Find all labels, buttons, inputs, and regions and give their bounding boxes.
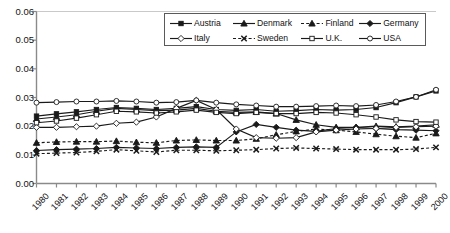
legend-row: AustriaDenmarkFinlandGermany bbox=[168, 16, 422, 31]
data-point-open-diamond bbox=[53, 124, 59, 130]
data-point-open-diamond bbox=[113, 120, 119, 126]
data-point-open-circle bbox=[214, 100, 219, 105]
data-point-open-diamond bbox=[133, 119, 139, 125]
y-tick-label: 0.01 bbox=[0, 150, 34, 160]
data-point-open-square bbox=[274, 111, 278, 115]
legend-item-germany[interactable]: Germany bbox=[357, 16, 422, 31]
data-series-layer bbox=[33, 87, 439, 156]
legend-swatch-open-square bbox=[299, 33, 325, 44]
legend-label: USA bbox=[383, 34, 401, 43]
legend-swatch-open-circle bbox=[357, 33, 383, 44]
data-point-open-circle bbox=[74, 99, 79, 104]
data-point-open-circle bbox=[114, 98, 119, 103]
series-sweden bbox=[34, 145, 439, 157]
data-point-open-circle bbox=[134, 99, 139, 104]
legend-label: Sweden bbox=[257, 34, 288, 43]
data-point-filled-square bbox=[179, 21, 183, 25]
data-point-open-square bbox=[334, 111, 338, 115]
data-point-open-square bbox=[134, 110, 138, 114]
y-tick-label: 0.06 bbox=[0, 7, 34, 17]
data-point-open-circle bbox=[414, 94, 419, 99]
data-point-open-circle bbox=[254, 103, 259, 108]
data-point-open-square bbox=[354, 113, 358, 117]
legend-item-uk[interactable]: U.K. bbox=[299, 31, 357, 46]
legend-item-denmark[interactable]: Denmark bbox=[231, 16, 299, 31]
legend-row: ItalySwedenU.K.USA bbox=[168, 31, 422, 46]
data-point-open-circle bbox=[394, 99, 399, 104]
y-tick-label: 0.05 bbox=[0, 35, 34, 45]
data-point-open-square bbox=[294, 111, 298, 115]
data-point-filled-triangle bbox=[393, 133, 399, 139]
series-usa bbox=[34, 87, 439, 109]
y-tick-label: 0.00 bbox=[0, 179, 34, 189]
data-point-filled-diamond bbox=[273, 124, 279, 130]
data-point-open-square bbox=[254, 110, 258, 114]
data-point-open-square bbox=[434, 120, 438, 124]
data-point-filled-triangle bbox=[113, 138, 119, 144]
data-point-open-circle bbox=[154, 100, 159, 105]
data-point-open-circle bbox=[334, 103, 339, 108]
data-point-open-circle bbox=[174, 100, 179, 105]
data-point-open-square bbox=[94, 113, 98, 117]
data-point-open-circle bbox=[354, 104, 359, 109]
legend-item-finland[interactable]: Finland bbox=[299, 16, 357, 31]
data-point-open-square bbox=[74, 116, 78, 120]
data-point-open-square bbox=[34, 121, 38, 125]
legend-item-austria[interactable]: Austria bbox=[168, 16, 231, 31]
data-point-open-circle bbox=[434, 87, 439, 92]
legend-label: Denmark bbox=[257, 19, 292, 28]
legend-swatch-filled-triangle bbox=[231, 18, 257, 29]
legend-item-sweden[interactable]: Sweden bbox=[231, 31, 299, 46]
data-point-open-square bbox=[314, 110, 318, 114]
data-point-filled-triangle bbox=[413, 134, 419, 140]
data-point-open-square bbox=[214, 110, 218, 114]
data-point-open-diamond bbox=[178, 35, 184, 41]
data-point-filled-diamond bbox=[367, 20, 373, 26]
data-point-open-circle bbox=[374, 102, 379, 107]
data-point-open-circle bbox=[274, 104, 279, 109]
data-point-open-square bbox=[414, 119, 418, 123]
data-point-open-diamond bbox=[73, 124, 79, 130]
data-point-open-circle bbox=[54, 100, 59, 105]
data-point-open-square bbox=[54, 119, 58, 123]
data-point-open-square bbox=[194, 108, 198, 112]
y-tick-label: 0.04 bbox=[0, 64, 34, 74]
legend-label: Austria bbox=[194, 19, 221, 28]
legend-item-usa[interactable]: USA bbox=[357, 31, 422, 46]
data-point-open-square bbox=[394, 118, 398, 122]
data-point-open-square bbox=[310, 36, 314, 40]
legend-label: Germany bbox=[383, 19, 418, 28]
data-point-open-diamond bbox=[293, 135, 299, 141]
legend-label: U.K. bbox=[325, 34, 342, 43]
data-point-x-cross bbox=[254, 147, 259, 152]
y-tick-label: 0.03 bbox=[0, 93, 34, 103]
data-point-open-square bbox=[234, 111, 238, 115]
data-point-filled-triangle bbox=[133, 139, 139, 145]
data-point-filled-diamond bbox=[253, 121, 259, 127]
data-point-open-circle bbox=[194, 98, 199, 103]
data-point-open-circle bbox=[368, 36, 373, 41]
data-point-open-square bbox=[174, 110, 178, 114]
y-tick-label: 0.02 bbox=[0, 121, 34, 131]
data-point-open-circle bbox=[94, 99, 99, 104]
data-point-open-diamond bbox=[93, 123, 99, 129]
data-point-open-circle bbox=[234, 102, 239, 107]
legend-swatch-filled-square bbox=[168, 18, 194, 29]
data-point-open-circle bbox=[314, 104, 319, 109]
data-point-open-square bbox=[374, 115, 378, 119]
legend-swatch-x-cross bbox=[231, 33, 257, 44]
x-tick-marks bbox=[37, 184, 437, 188]
chart-legend: AustriaDenmarkFinlandGermanyItalySwedenU… bbox=[164, 13, 426, 46]
legend-swatch-filled-triangle bbox=[299, 18, 325, 29]
legend-swatch-open-diamond bbox=[168, 33, 194, 44]
data-point-open-square bbox=[114, 109, 118, 113]
legend-item-italy[interactable]: Italy bbox=[168, 31, 231, 46]
data-point-open-circle bbox=[34, 100, 39, 105]
legend-swatch-filled-diamond bbox=[357, 18, 383, 29]
legend-label: Italy bbox=[194, 34, 210, 43]
legend-label: Finland bbox=[325, 19, 353, 28]
data-point-open-circle bbox=[294, 104, 299, 109]
data-point-open-square bbox=[154, 111, 158, 115]
